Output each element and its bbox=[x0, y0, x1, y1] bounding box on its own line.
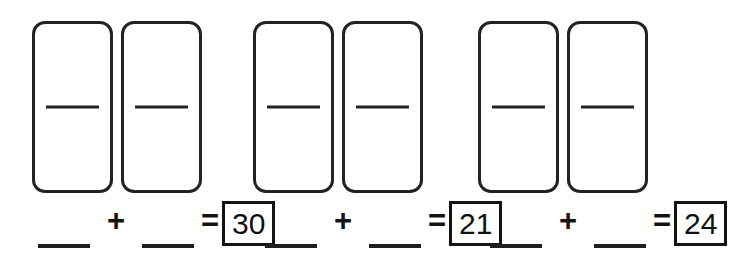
domino-2a-bottom-half[interactable] bbox=[256, 107, 331, 190]
equation-2-plus-sign: + bbox=[334, 198, 352, 236]
equation-1-addend-2-blank[interactable] bbox=[142, 206, 194, 248]
domino-3a-bottom-half[interactable] bbox=[481, 107, 556, 190]
domino-3a-top-half[interactable] bbox=[481, 24, 556, 107]
equation-2: + = 21 bbox=[265, 198, 502, 263]
domino-pair-2 bbox=[253, 21, 423, 193]
domino-1b-bottom-half[interactable] bbox=[124, 107, 199, 190]
equation-1: + = 30 bbox=[38, 198, 275, 263]
equation-row: + = 30 + = 21 + = 24 bbox=[0, 198, 741, 263]
equation-3-addend-1-blank[interactable] bbox=[490, 206, 542, 248]
equation-3-addend-2-blank[interactable] bbox=[594, 206, 646, 248]
equation-1-addend-1-blank[interactable] bbox=[38, 206, 90, 248]
equation-1-equals-sign: = bbox=[201, 198, 219, 236]
domino-tile-2b[interactable] bbox=[342, 21, 423, 193]
equation-3: + = 24 bbox=[490, 198, 727, 263]
domino-tile-1a[interactable] bbox=[32, 21, 113, 193]
equation-3-sum-box: 24 bbox=[674, 201, 727, 246]
domino-row bbox=[0, 0, 741, 200]
domino-pair-3 bbox=[478, 21, 648, 193]
equation-3-plus-sign: + bbox=[559, 198, 577, 236]
domino-2b-bottom-half[interactable] bbox=[345, 107, 420, 190]
domino-tile-3b[interactable] bbox=[567, 21, 648, 193]
equation-2-addend-2-blank[interactable] bbox=[369, 206, 421, 248]
worksheet-page: + = 30 + = 21 + = 24 bbox=[0, 0, 741, 263]
domino-3b-top-half[interactable] bbox=[570, 24, 645, 107]
equation-2-equals-sign: = bbox=[428, 198, 446, 236]
equation-3-equals-sign: = bbox=[653, 198, 671, 236]
domino-tile-3a[interactable] bbox=[478, 21, 559, 193]
domino-1a-bottom-half[interactable] bbox=[35, 107, 110, 190]
equation-2-addend-1-blank[interactable] bbox=[265, 206, 317, 248]
equation-1-plus-sign: + bbox=[107, 198, 125, 236]
domino-tile-2a[interactable] bbox=[253, 21, 334, 193]
domino-1a-top-half[interactable] bbox=[35, 24, 110, 107]
domino-1b-top-half[interactable] bbox=[124, 24, 199, 107]
domino-pair-1 bbox=[32, 21, 202, 193]
domino-tile-1b[interactable] bbox=[121, 21, 202, 193]
domino-2a-top-half[interactable] bbox=[256, 24, 331, 107]
domino-3b-bottom-half[interactable] bbox=[570, 107, 645, 190]
domino-2b-top-half[interactable] bbox=[345, 24, 420, 107]
